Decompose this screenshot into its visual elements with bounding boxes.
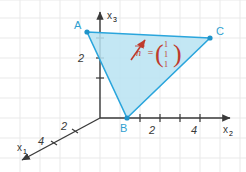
normal-component-3: 1 <box>164 60 168 69</box>
tick-label-x1-2: 2 <box>60 120 67 132</box>
axis-label-x3-sub: 3 <box>113 16 117 23</box>
column-vector-paren-right: ) <box>173 39 182 68</box>
tick-label-x2-4: 4 <box>191 124 197 136</box>
tick-label-x1-4: 4 <box>38 135 44 147</box>
point-label-a: A <box>74 19 82 31</box>
axis-label-x1: x 1 <box>17 142 27 155</box>
axis-label-x1-base: x <box>17 142 22 153</box>
tick-label-x3-2: 2 <box>77 52 84 64</box>
point-c-marker <box>207 35 212 40</box>
normal-component-1: 1 <box>164 40 168 49</box>
axis-label-x2-base: x <box>223 124 228 135</box>
axis-label-x3: x 3 <box>107 10 117 23</box>
triangle-abc <box>87 32 210 118</box>
axis-label-x2-sub: 2 <box>229 130 233 137</box>
normal-vector-symbol: n <box>136 47 141 58</box>
column-vector-paren-left: ( <box>155 39 164 68</box>
axis-label-x3-base: x <box>107 10 112 21</box>
axis-label-x2: x 2 <box>223 124 233 137</box>
point-a-marker <box>84 29 89 34</box>
tick-label-x2-2: 2 <box>148 124 155 136</box>
normal-vector-equals: = <box>147 47 154 58</box>
point-label-c: C <box>216 25 224 37</box>
coordinate-system-figure: A B C 2 2 4 2 4 x 3 x 2 x 1 n = ( ) <box>0 0 246 172</box>
point-b-marker <box>124 115 129 120</box>
normal-component-2: 1 <box>164 50 168 59</box>
axis-label-x1-sub: 1 <box>23 148 27 155</box>
point-label-b: B <box>120 122 127 134</box>
diagram-canvas: A B C 2 2 4 2 4 x 3 x 2 x 1 n = ( ) <box>0 0 246 172</box>
